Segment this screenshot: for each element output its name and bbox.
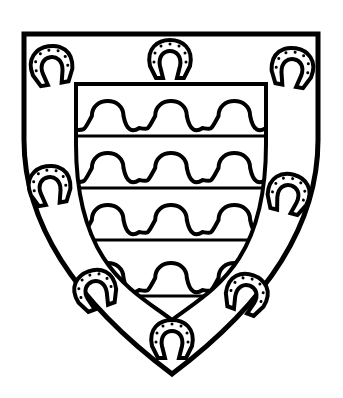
nail-hole xyxy=(154,52,157,55)
nail-hole xyxy=(171,323,174,326)
nail-hole xyxy=(178,45,181,48)
nail-hole xyxy=(169,43,172,46)
nail-hole xyxy=(180,325,183,328)
shield-drawing xyxy=(0,0,343,398)
nail-hole xyxy=(162,325,165,328)
nail-hole xyxy=(184,52,187,55)
nail-hole xyxy=(160,45,163,48)
nail-hole xyxy=(186,332,189,335)
nail-hole xyxy=(156,332,159,335)
heraldic-shield-image xyxy=(0,0,343,398)
nail-hole xyxy=(155,341,158,344)
nail-hole xyxy=(153,61,156,64)
nail-hole xyxy=(185,61,188,64)
nail-hole xyxy=(187,341,190,344)
